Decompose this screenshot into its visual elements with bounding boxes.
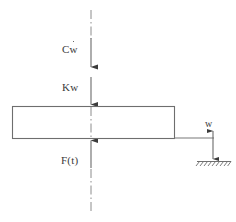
damping-force-label-base: C [62, 43, 70, 55]
displacement-label: w [205, 119, 212, 129]
mass-block [13, 107, 175, 139]
damping-force-label-variable-wrap: w [70, 44, 78, 55]
excitation-force-label: F(t) [61, 155, 78, 166]
free-body-diagram: Cw Kw F(t) w [0, 0, 236, 222]
ground-hatching [196, 162, 231, 167]
spring-force-label: Kw [62, 82, 78, 93]
diagram-canvas [0, 0, 236, 222]
damping-force-label: Cw [62, 44, 78, 55]
damping-force-label-variable: w [70, 43, 78, 55]
